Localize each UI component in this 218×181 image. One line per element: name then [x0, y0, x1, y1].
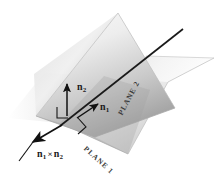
- label-vector-n2: n2: [77, 81, 86, 94]
- label-cross-subscript-b: 2: [60, 153, 64, 161]
- label-vector-n1: n1: [100, 101, 109, 114]
- label-n1-subscript: 1: [106, 106, 110, 114]
- geometry-figure: n2 n1 n1×n2 PLANE 1 PLANE 2: [0, 0, 218, 181]
- figure-canvas: [0, 0, 218, 181]
- label-n2-subscript: 2: [83, 86, 87, 94]
- cross-product-vector: [33, 125, 62, 142]
- label-cross-product: n1×n2: [37, 148, 63, 161]
- cross-operator-icon: ×: [46, 149, 53, 159]
- cross-product-tail: [19, 142, 33, 161]
